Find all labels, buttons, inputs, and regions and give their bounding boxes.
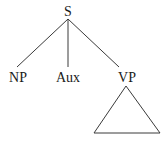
syntax-tree-diagram: S NP Aux VP bbox=[0, 0, 166, 144]
node-s: S bbox=[64, 4, 72, 19]
vp-triangle bbox=[94, 86, 160, 133]
node-aux: Aux bbox=[56, 70, 80, 85]
node-np: NP bbox=[9, 70, 27, 85]
branch-s-vp bbox=[68, 19, 119, 67]
node-vp: VP bbox=[118, 70, 136, 85]
branch-s-np bbox=[17, 19, 68, 67]
